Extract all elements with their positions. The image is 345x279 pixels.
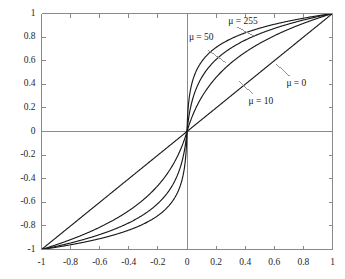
y-tick-label: 1 <box>0 9 36 19</box>
x-tick-label: 1 <box>313 258 345 268</box>
y-tick-label: -0.2 <box>0 150 36 160</box>
annotation-mu-10: μ = 10 <box>249 97 274 107</box>
y-tick-label: 0.8 <box>0 32 36 42</box>
y-tick-label: 0 <box>0 127 36 137</box>
annotation-mu-0: μ = 0 <box>286 79 306 89</box>
chart-figure: 10.80.60.40.20-0.2-0.4-0.6-0.8-1 -1-0.8-… <box>0 0 345 279</box>
annotation-mu-50: μ = 50 <box>189 33 214 43</box>
y-tick-label: -1 <box>0 245 36 255</box>
y-tick-label: -0.4 <box>0 174 36 184</box>
y-tick-label: -0.6 <box>0 197 36 207</box>
chart-background <box>0 0 345 279</box>
y-tick-label: -0.8 <box>0 221 36 231</box>
y-tick-label: 0.2 <box>0 103 36 113</box>
y-tick-label: 0.6 <box>0 56 36 66</box>
annotation-mu-255: μ = 255 <box>228 17 257 27</box>
y-tick-label: 0.4 <box>0 79 36 89</box>
mu-law-companding-chart <box>0 0 345 279</box>
